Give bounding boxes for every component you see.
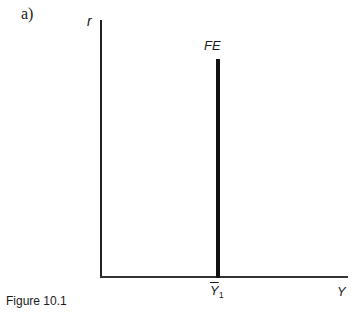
y-axis: [100, 20, 102, 278]
y1-symbol: Y: [210, 283, 219, 298]
x-axis-label: Y: [337, 284, 346, 299]
panel-label: a): [21, 5, 33, 23]
y-axis-label: r: [87, 13, 92, 29]
y1-subscript: 1: [219, 290, 224, 300]
x-axis: [100, 276, 348, 278]
y1-tick-label: Y1: [210, 283, 224, 300]
figure-caption: Figure 10.1: [6, 294, 67, 308]
fe-vertical-line: [216, 59, 220, 278]
fe-curve-label: FE: [204, 38, 221, 53]
